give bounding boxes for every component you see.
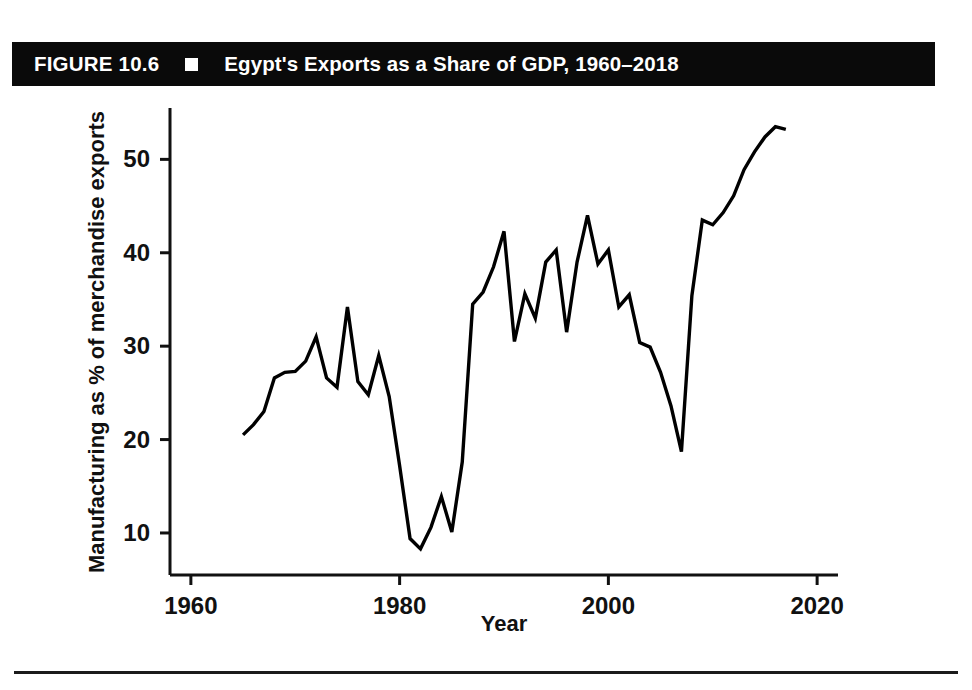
source-note bbox=[16, 678, 716, 690]
figure-page: FIGURE 10.6 Egypt's Exports as a Share o… bbox=[0, 0, 972, 690]
data-series-line bbox=[243, 127, 786, 549]
y-axis-tick-label: 10 bbox=[123, 519, 150, 546]
x-axis-tick-label: 1980 bbox=[373, 592, 426, 619]
figure-number-label: FIGURE 10.6 bbox=[34, 52, 159, 76]
y-axis-tick-label: 30 bbox=[123, 332, 150, 359]
figure-title-bar: FIGURE 10.6 Egypt's Exports as a Share o… bbox=[12, 42, 935, 86]
x-axis-tick-label: 2000 bbox=[582, 592, 635, 619]
line-chart: 1020304050 1960198020002020 Manufacturin… bbox=[0, 86, 972, 631]
square-bullet-icon bbox=[185, 58, 198, 71]
figure-title-text: Egypt's Exports as a Share of GDP, 1960–… bbox=[224, 52, 678, 76]
x-axis-tick-label: 1960 bbox=[164, 592, 217, 619]
y-axis-title: Manufacturing as % of merchandise export… bbox=[84, 111, 109, 573]
footer-divider bbox=[14, 671, 958, 674]
y-axis-tick-label: 50 bbox=[123, 145, 150, 172]
y-axis-tick-label: 40 bbox=[123, 239, 150, 266]
y-axis-tick-labels: 1020304050 bbox=[123, 145, 150, 546]
x-axis-title: Year bbox=[481, 611, 528, 631]
chart-container: 1020304050 1960198020002020 Manufacturin… bbox=[0, 86, 972, 631]
y-axis-tick-label: 20 bbox=[123, 426, 150, 453]
x-axis-tick-label: 2020 bbox=[790, 592, 843, 619]
